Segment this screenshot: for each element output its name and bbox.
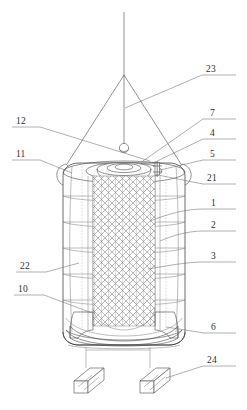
patent-figure: 121122102374521123624 xyxy=(0,0,247,410)
callout-22-number: 22 xyxy=(20,261,30,271)
callout-7-number: 7 xyxy=(210,108,215,118)
callout-11-number: 11 xyxy=(16,149,26,159)
callout-1-number: 1 xyxy=(211,198,216,208)
callout-12-number: 12 xyxy=(16,116,26,126)
callout-4-number: 4 xyxy=(210,128,215,138)
mesh-fill xyxy=(93,176,155,326)
callout-21-number: 21 xyxy=(207,173,217,183)
filter-media-group xyxy=(93,176,155,330)
callout-6-number: 6 xyxy=(211,322,216,332)
callout-23-number: 23 xyxy=(206,64,216,74)
callout-10-number: 10 xyxy=(18,284,28,294)
foot-right-front xyxy=(140,381,154,393)
callout-2-number: 2 xyxy=(211,220,216,230)
callout-3-number: 3 xyxy=(211,251,216,261)
figure-canvas: 121122102374521123624 xyxy=(0,0,247,410)
boss-ring-inner xyxy=(107,163,141,172)
callout-5-number: 5 xyxy=(210,149,215,159)
foot-left-front xyxy=(74,381,88,393)
callout-24-number: 24 xyxy=(207,355,217,365)
